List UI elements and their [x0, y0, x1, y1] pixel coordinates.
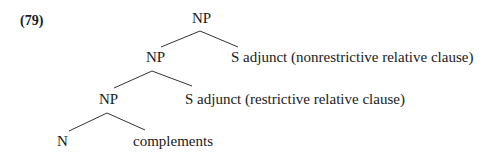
- branch-l2-left: [69, 113, 107, 131]
- tree-branches: [0, 0, 485, 164]
- node-l3-left: N: [57, 133, 68, 150]
- node-l1-right: S adjunct (nonrestrictive relative claus…: [231, 49, 473, 66]
- branch-l2-right: [107, 113, 145, 130]
- branch-root-left: [161, 31, 200, 47]
- node-root: NP: [192, 10, 211, 27]
- branch-l1-right: [152, 71, 192, 86]
- node-l3-right: complements: [133, 133, 213, 150]
- node-l2-right: S adjunct (restrictive relative clause): [185, 91, 405, 108]
- example-number: (79): [20, 12, 43, 29]
- branch-root-right: [200, 31, 238, 47]
- branch-l1-left: [114, 71, 152, 88]
- node-l1-left: NP: [146, 49, 165, 66]
- node-l2-left: NP: [99, 91, 118, 108]
